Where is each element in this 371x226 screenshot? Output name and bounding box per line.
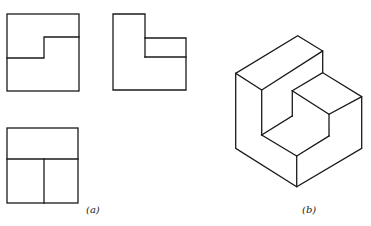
top-view: [7, 128, 78, 203]
front-view: [7, 14, 79, 91]
orthographic-projection-diagram: [0, 0, 371, 226]
panel-a-label: (a): [86, 204, 100, 215]
side-view: [113, 14, 186, 90]
isometric-view: [236, 36, 362, 187]
panel-b-label: (b): [302, 204, 316, 215]
